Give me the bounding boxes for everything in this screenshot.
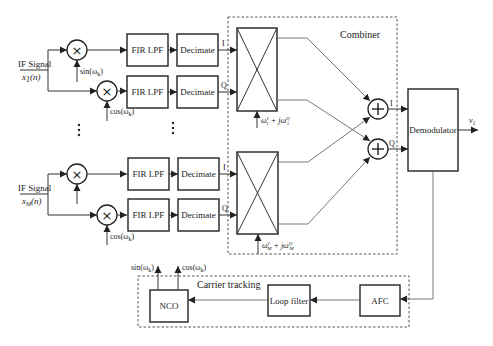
channel-1-mixer-q: × — [97, 81, 117, 101]
fir-lpf-label: FIR LPF — [132, 87, 164, 97]
channel-1-mixer-i: × — [67, 40, 87, 60]
decimate-label: Decimate — [180, 87, 214, 97]
q-label: Q — [222, 204, 228, 213]
channel-m-mixer-q: × — [97, 205, 117, 225]
summer-q-output-label: Q — [389, 139, 395, 148]
multiply-icon: × — [102, 208, 113, 223]
channel-1-input-signal: x1(n) — [21, 72, 41, 84]
channel-m-mixer-i: × — [67, 164, 87, 184]
i-label: I — [222, 39, 225, 48]
decimate-label: Decimate — [181, 169, 215, 179]
nco-sin-output-label: sin(ωk) — [131, 263, 154, 273]
channel-m-complex-weight — [237, 152, 278, 234]
channel-1-sin-ref: sin(ωk) — [80, 67, 103, 77]
channel-m-input-signal: xM(n) — [21, 196, 42, 207]
channel-m-input-label: IF Signal — [18, 183, 52, 193]
carrier-tracking-label: Carrier tracking — [197, 279, 261, 290]
decimate-label: Decimate — [181, 210, 215, 220]
channel-1-input-label: IF Signal — [18, 59, 52, 69]
loop-filter-label: Loop filter — [270, 296, 309, 306]
summer-q — [368, 139, 388, 159]
summer-i — [368, 99, 388, 119]
receiver-block-diagram: Combiner IF Signal x1(n) × sin(ωk) × cos… — [0, 0, 493, 346]
demodulator-output-label: v1 — [469, 116, 476, 126]
carrier-tracking-region: Carrier tracking NCO Loop filter AFC sin… — [131, 263, 409, 327]
demodulator-label: Demodulator — [409, 125, 457, 135]
summer-i-output-label: I — [390, 99, 393, 108]
channel-1-weight-label: ωI1 + jωQ1 — [261, 116, 290, 126]
combiner-label: Combiner — [340, 29, 381, 40]
fir-lpf-label: FIR LPF — [133, 169, 165, 179]
q-label: Q — [221, 81, 227, 90]
channel-ellipsis — [78, 122, 174, 136]
channel-m: IF Signal xM(n) × × cos(ωk) FIR LPF FIR … — [18, 117, 370, 254]
channel-m-weight-label: ωIM + jωQM — [262, 241, 294, 251]
nco-cos-output-label: cos(ωk) — [182, 263, 207, 273]
channel-1: IF Signal x1(n) × sin(ωk) × cos(ωk) FIR … — [18, 28, 370, 141]
i-label: I — [223, 163, 226, 172]
nco-label: NCO — [159, 301, 179, 311]
multiply-icon: × — [72, 167, 83, 182]
fir-lpf-label: FIR LPF — [132, 45, 164, 55]
decimate-label: Decimate — [180, 45, 214, 55]
afc-label: AFC — [371, 296, 389, 306]
fir-lpf-label: FIR LPF — [133, 210, 165, 220]
channel-m-cos-ref: cos(ωk) — [110, 232, 135, 242]
channel-1-complex-weight — [237, 28, 277, 111]
multiply-icon: × — [102, 84, 113, 99]
multiply-icon: × — [72, 43, 83, 58]
